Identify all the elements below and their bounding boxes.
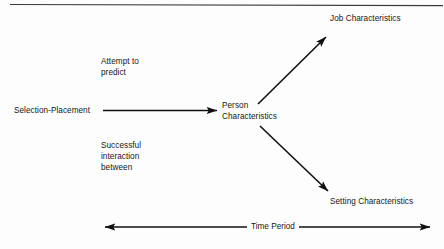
node-selection-placement: Selection-Placement bbox=[14, 105, 90, 116]
diagram-canvas: Selection-Placement Person Characteristi… bbox=[0, 0, 444, 249]
diagram-vector-layer bbox=[0, 0, 444, 249]
arrow-person-to-job bbox=[258, 37, 326, 104]
node-person-characteristics-line1: Person bbox=[222, 100, 248, 111]
annotation-attempt-to-predict: Attempt to predict bbox=[101, 56, 139, 78]
node-job-characteristics: Job Characteristics bbox=[330, 13, 401, 24]
node-setting-characteristics: Setting Characteristics bbox=[330, 196, 413, 207]
node-person-characteristics-line2: Characteristics bbox=[222, 111, 277, 122]
time-period-label: Time Period bbox=[247, 221, 299, 232]
top-rule bbox=[10, 5, 443, 6]
annotation-successful-interaction-between: Successful interaction between bbox=[101, 140, 141, 173]
arrow-person-to-setting bbox=[260, 126, 328, 191]
